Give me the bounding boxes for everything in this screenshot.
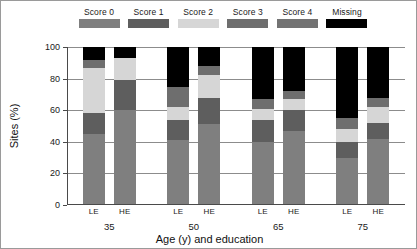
- legend-swatch-score-1: [128, 19, 169, 28]
- education-label: HE: [283, 207, 305, 219]
- education-label-group: LEHE: [236, 207, 321, 219]
- legend-item: Score 3: [226, 7, 270, 28]
- legend-swatch-score-3: [227, 19, 268, 28]
- y-axis-tick-label: 40: [50, 137, 60, 147]
- education-label-group: LEHE: [67, 207, 152, 219]
- legend-item: Score 0: [77, 7, 121, 28]
- plot-frame: [67, 47, 405, 205]
- education-label-group: LEHE: [152, 207, 237, 219]
- x-axis-title: Age (y) and education: [1, 233, 417, 245]
- legend-item: Missing: [325, 7, 369, 28]
- education-label: HE: [114, 207, 136, 219]
- education-label: HE: [367, 207, 389, 219]
- education-label: LE: [167, 207, 189, 219]
- age-label: 35: [104, 221, 115, 232]
- y-axis-tick-label: 60: [50, 105, 60, 115]
- age-label: 75: [357, 221, 368, 232]
- age-label: 50: [188, 221, 199, 232]
- legend-swatch-missing: [326, 19, 367, 28]
- education-label: LE: [336, 207, 358, 219]
- y-axis-tick-label: 80: [50, 74, 60, 84]
- legend-swatch-score-4: [277, 19, 318, 28]
- y-axis-tick-label: 0: [55, 200, 60, 210]
- age-label: 65: [273, 221, 284, 232]
- legend-item-label: Score 4: [282, 7, 312, 17]
- education-label: HE: [198, 207, 220, 219]
- age-label-group: 75: [321, 220, 406, 233]
- x-axis-age-labels: 35506575: [67, 220, 405, 233]
- legend-item-label: Score 3: [233, 7, 263, 17]
- legend-item: Score 2: [176, 7, 220, 28]
- education-label-group: LEHE: [321, 207, 406, 219]
- legend-swatch-score-0: [79, 19, 120, 28]
- age-label-group: 50: [152, 220, 237, 233]
- legend-item-label: Score 0: [84, 7, 114, 17]
- legend-item-label: Score 2: [183, 7, 213, 17]
- legend-swatch-score-2: [178, 19, 219, 28]
- chart-legend: Score 0Score 1Score 2Score 3Score 4Missi…: [77, 7, 369, 37]
- x-axis-education-labels: LEHELEHELEHELEHE: [67, 207, 405, 219]
- plot-area: 020406080100: [67, 47, 405, 205]
- y-axis-title: Sites (%): [7, 47, 21, 205]
- y-axis-tick: [63, 205, 67, 206]
- legend-item: Score 4: [275, 7, 319, 28]
- legend-item-label: Score 1: [134, 7, 164, 17]
- chart-figure: Score 0Score 1Score 2Score 3Score 4Missi…: [0, 0, 417, 249]
- y-axis-tick-label: 20: [50, 168, 60, 178]
- age-label-group: 35: [67, 220, 152, 233]
- legend-item-label: Missing: [332, 7, 362, 17]
- age-label-group: 65: [236, 220, 321, 233]
- education-label: LE: [252, 207, 274, 219]
- legend-item: Score 1: [127, 7, 171, 28]
- education-label: LE: [83, 207, 105, 219]
- y-axis-tick-label: 100: [45, 42, 60, 52]
